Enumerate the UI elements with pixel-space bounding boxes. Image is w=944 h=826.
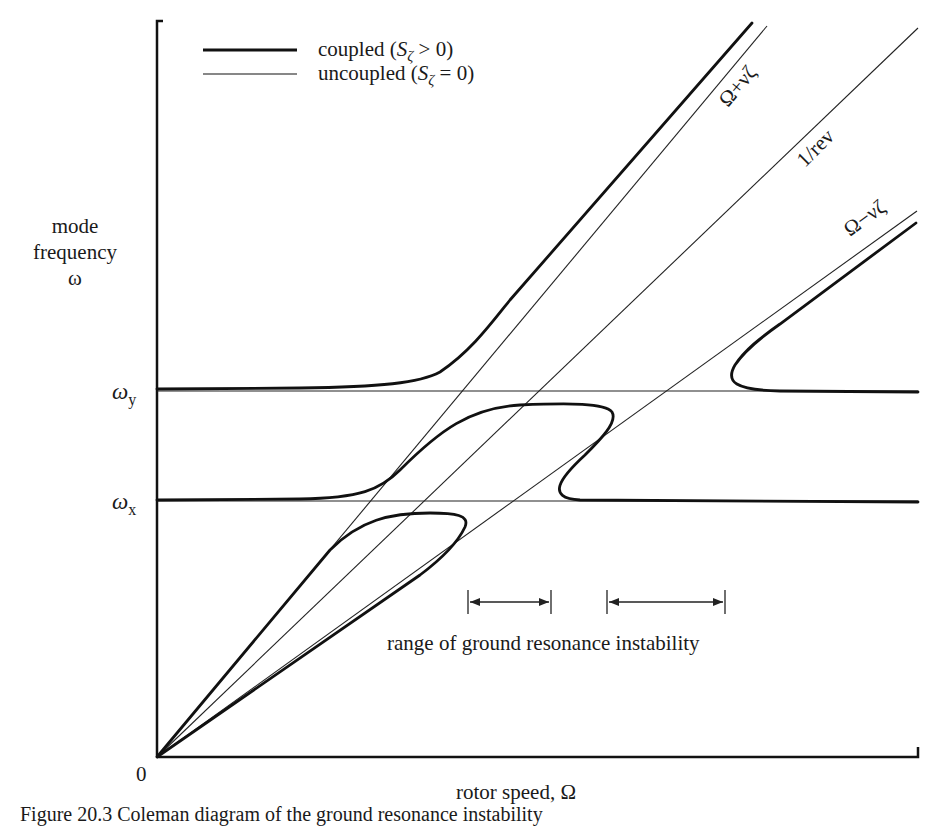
line-omega-minus <box>157 211 917 757</box>
label-omega-plus: Ω+νζ <box>713 61 761 112</box>
legend-uncoupled: uncoupled (Sζ = 0) <box>318 63 474 88</box>
right-branch <box>731 223 918 392</box>
figure-caption: Figure 20.3 Coleman diagram of the groun… <box>20 803 543 826</box>
middle-branch <box>157 404 918 502</box>
origin-label: 0 <box>136 764 147 785</box>
label-one-rev: 1/rev <box>792 124 840 172</box>
label-omega-minus: Ω−νζ <box>839 195 890 241</box>
tick-omega-x: ωx <box>112 490 136 518</box>
tick-omega-y: ωy <box>112 380 136 408</box>
x-axis-label: rotor speed, Ω <box>456 782 576 803</box>
instability-label: range of ground resonance instability <box>387 633 700 654</box>
y-axis-label: mode frequency ω <box>20 213 130 291</box>
legend-lines <box>203 50 297 74</box>
instability-ranges <box>468 590 725 614</box>
